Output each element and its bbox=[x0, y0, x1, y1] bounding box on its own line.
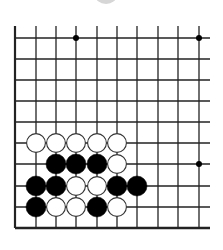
black-stone[interactable] bbox=[107, 176, 127, 196]
black-stone[interactable] bbox=[127, 176, 147, 196]
white-stone[interactable] bbox=[27, 134, 46, 153]
black-stone[interactable] bbox=[66, 154, 86, 174]
white-stone[interactable] bbox=[67, 177, 86, 196]
white-stone[interactable] bbox=[67, 134, 86, 153]
black-stone[interactable] bbox=[87, 197, 107, 217]
black-stone[interactable] bbox=[26, 197, 46, 217]
star-point-icon bbox=[73, 35, 79, 41]
black-stone[interactable] bbox=[26, 176, 46, 196]
star-point-icon bbox=[196, 161, 202, 167]
white-stone[interactable] bbox=[88, 177, 107, 196]
white-stone[interactable] bbox=[108, 155, 127, 174]
white-stone[interactable] bbox=[67, 198, 86, 217]
star-point-icon bbox=[196, 35, 202, 41]
white-stone[interactable] bbox=[108, 134, 127, 153]
black-stone[interactable] bbox=[87, 154, 107, 174]
white-stone[interactable] bbox=[108, 198, 127, 217]
black-stone[interactable] bbox=[46, 176, 66, 196]
white-stone[interactable] bbox=[88, 134, 107, 153]
white-stone[interactable] bbox=[47, 198, 66, 217]
white-stone[interactable] bbox=[47, 134, 66, 153]
black-stone[interactable] bbox=[46, 154, 66, 174]
go-board[interactable] bbox=[0, 0, 223, 250]
stones-layer bbox=[26, 134, 147, 217]
board-grid bbox=[15, 26, 210, 228]
